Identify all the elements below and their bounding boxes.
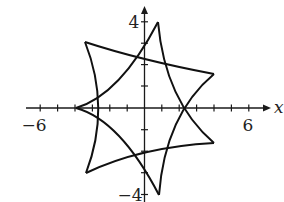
curve-arc-top [85,42,214,74]
x-min-label: −6 [21,115,46,135]
y-axis-arrow-icon [141,6,148,14]
x-axis-name: x [274,97,284,117]
curve-arc-bottom [86,143,214,173]
x-max-label: 6 [243,115,254,135]
x-axis-arrow-icon [263,105,271,112]
y-max-label: 4 [129,12,140,32]
x-axis: −6 6 x [21,97,284,135]
y-min-label: −4 [117,185,142,202]
y-axis: 4 −4 [117,6,148,202]
star-curve-chart: −6 6 x 4 −4 [0,0,284,202]
